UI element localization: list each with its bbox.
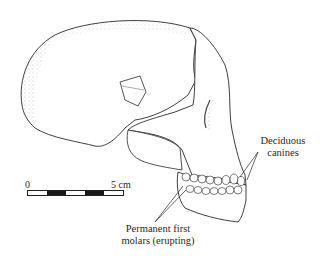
label-line: molars (erupting) bbox=[108, 235, 208, 247]
label-line: Deciduous bbox=[252, 135, 314, 147]
scale-segment bbox=[47, 191, 66, 195]
skull-illustration bbox=[0, 0, 322, 256]
scale-segment bbox=[28, 191, 47, 195]
scale-segment bbox=[104, 191, 123, 195]
label-line: canines bbox=[252, 147, 314, 159]
label-line: Permanent first bbox=[108, 223, 208, 235]
scale-start-label: 0 bbox=[25, 180, 30, 190]
label-deciduous-canines: Deciduous canines bbox=[252, 135, 314, 159]
scale-end-label: 5 cm bbox=[111, 180, 131, 190]
scale-segment bbox=[85, 191, 104, 195]
scale-bar bbox=[27, 190, 124, 196]
scale-segment bbox=[66, 191, 85, 195]
label-permanent-first-molars: Permanent first molars (erupting) bbox=[108, 223, 208, 247]
